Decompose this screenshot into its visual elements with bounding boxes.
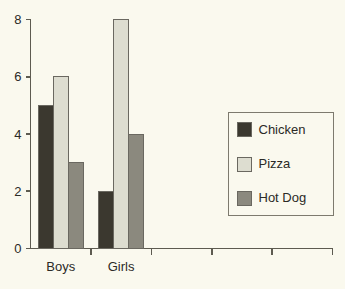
bar-girls-pizza — [114, 20, 129, 249]
legend-label-hot-dog: Hot Dog — [259, 190, 307, 205]
x-tick-label-girls: Girls — [108, 259, 135, 274]
bar-chart-figure: 02468 BoysGirls ChickenPizzaHot Dog — [0, 0, 345, 289]
legend-label-chicken: Chicken — [259, 122, 306, 137]
legend-swatch-pizza — [238, 157, 252, 171]
y-tick-label-8: 8 — [14, 12, 21, 27]
legend-label-pizza: Pizza — [259, 156, 292, 171]
legend-swatch-hot-dog — [238, 191, 252, 205]
chart-legend: ChickenPizzaHot Dog — [229, 113, 334, 216]
y-tick-label-2: 2 — [14, 184, 21, 199]
bar-girls-chicken — [99, 191, 114, 248]
bar-boys-pizza — [53, 77, 68, 249]
bar-girls-hot-dog — [129, 134, 144, 249]
y-tick-label-0: 0 — [14, 241, 21, 256]
chart-canvas: 02468 BoysGirls ChickenPizzaHot Dog — [0, 0, 345, 289]
legend-swatch-chicken — [238, 123, 252, 137]
y-tick-label-4: 4 — [14, 127, 21, 142]
bar-boys-hot-dog — [68, 163, 83, 249]
x-tick-label-boys: Boys — [46, 259, 75, 274]
y-tick-label-6: 6 — [14, 69, 21, 84]
bar-boys-chicken — [38, 105, 53, 248]
